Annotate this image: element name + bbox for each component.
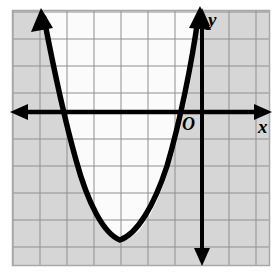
x-axis-label: x [257, 116, 268, 137]
graph-figure: O x y [0, 0, 279, 274]
origin-label: O [182, 114, 195, 134]
y-axis-label: y [206, 9, 217, 30]
coordinate-plane-graph: O x y [0, 0, 279, 274]
